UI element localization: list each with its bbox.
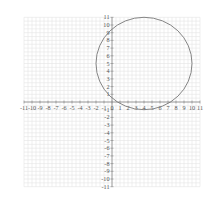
x-tick-label: 5 (150, 104, 153, 111)
y-tick-label: -5 (104, 137, 109, 144)
y-tick-label: -7 (104, 152, 109, 159)
x-tick-label: 8 (174, 104, 177, 111)
y-tick-label: 11 (104, 13, 110, 20)
x-tick-label: -4 (77, 104, 82, 111)
y-tick-label: 10 (103, 21, 109, 28)
y-tick-label: 3 (106, 75, 109, 82)
x-tick-label: 7 (166, 104, 169, 111)
y-tick-label: 4 (106, 67, 109, 74)
x-tick-label: -10 (28, 104, 36, 111)
coordinate-plane: -11-10-9-8-7-6-5-4-3-2-101234567891011 -… (0, 0, 214, 200)
x-tick-label: 3 (134, 104, 137, 111)
y-tick-label: 5 (106, 60, 109, 67)
x-tick-label: -2 (93, 104, 98, 111)
y-tick-label: -6 (104, 144, 109, 151)
x-tick-label: -9 (37, 104, 42, 111)
y-tick-label: -1 (104, 106, 109, 113)
x-tick-label: -3 (85, 104, 90, 111)
y-tick-label: -8 (104, 160, 109, 167)
x-tick-labels: -11-10-9-8-7-6-5-4-3-2-101234567891011 (20, 104, 203, 111)
x-tick-label: -8 (45, 104, 50, 111)
y-tick-label: 8 (106, 36, 109, 43)
x-tick-label: 10 (189, 104, 195, 111)
x-tick-label: 0 (110, 104, 113, 111)
y-tick-label: -3 (104, 121, 109, 128)
x-tick-label: -7 (53, 104, 58, 111)
x-tick-label: 1 (118, 104, 121, 111)
y-tick-label: -4 (104, 129, 109, 136)
y-tick-label: 6 (106, 52, 109, 59)
y-tick-label: -2 (104, 113, 109, 120)
y-tick-label: -11 (101, 183, 109, 190)
y-tick-label: -9 (104, 167, 109, 174)
x-tick-label: -11 (20, 104, 28, 111)
x-tick-label: -6 (61, 104, 66, 111)
x-tick-label: 11 (197, 104, 203, 111)
y-tick-label: 7 (106, 44, 109, 51)
y-tick-label: -10 (101, 175, 109, 182)
y-tick-label: 2 (106, 83, 109, 90)
x-tick-label: 9 (182, 104, 185, 111)
x-tick-label: -5 (69, 104, 74, 111)
